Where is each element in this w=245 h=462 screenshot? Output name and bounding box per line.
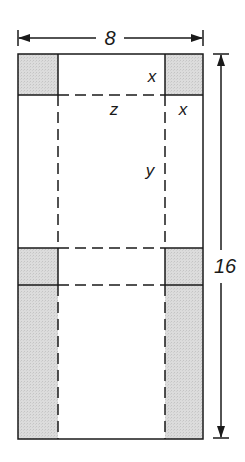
label-x-top: x xyxy=(147,67,157,86)
shaded-bottom-right-strip xyxy=(165,248,203,439)
width-label: 8 xyxy=(104,27,115,49)
box-net-diagram: 8 16 x z x y xyxy=(0,0,245,462)
shaded-bottom-left-strip xyxy=(18,248,58,439)
label-z: z xyxy=(109,100,119,119)
label-y: y xyxy=(145,161,156,180)
height-label: 16 xyxy=(214,255,237,277)
shaded-top-left-square xyxy=(18,54,58,95)
label-x-side: x xyxy=(178,100,188,119)
fold-lines xyxy=(58,95,165,439)
height-dimension xyxy=(213,54,229,438)
shaded-top-right-square xyxy=(165,54,203,95)
